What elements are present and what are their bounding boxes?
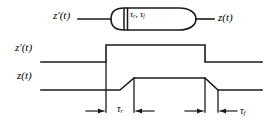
waveform-label-z: z(t) [17, 70, 32, 81]
waveform-z-prime [41, 45, 262, 62]
timing-diagram-figure: z′(t) z(t) τr, τf z′(t) z(t) τr τf [0, 0, 269, 128]
block-diagram-output-label: z(t) [218, 12, 233, 23]
waveform-label-z-prime: z′(t) [15, 42, 32, 53]
annotation-tau-fall-subscript: f [244, 109, 246, 116]
annotation-tau-fall: τf [240, 106, 245, 116]
tau-rise-arrow-right-head [136, 108, 142, 113]
tau-fall-arrow-right-head [220, 108, 226, 113]
tau-fall-arrow-left-head [197, 108, 203, 113]
block-diagram-input-label: z′(t) [53, 10, 70, 21]
delay-element-tau-fall-sub: f [143, 13, 145, 19]
delay-element-label: τr, τf [130, 10, 145, 20]
waveform-z [41, 78, 262, 90]
tau-rise-arrow-left-head [98, 108, 104, 113]
annotation-tau-rise: τr [117, 104, 123, 114]
annotation-tau-rise-subscript: r [121, 107, 123, 114]
